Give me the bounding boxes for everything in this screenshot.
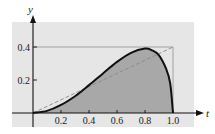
x-tick-label: 0.6 — [111, 115, 124, 126]
x-tick-label: 0.8 — [139, 115, 152, 126]
y-tick-label: 0.2 — [18, 75, 31, 86]
x-axis-label: t — [206, 107, 210, 119]
x-axis-arrow-icon — [196, 110, 204, 116]
x-tick-label: 0.2 — [55, 115, 68, 126]
chart: 0.2 0.4 0.6 0.8 1.0 0.2 0.4 t y — [0, 0, 215, 134]
y-axis-label: y — [27, 3, 33, 15]
x-tick-label: 0.4 — [83, 115, 96, 126]
y-axis-arrow-icon — [30, 15, 36, 23]
y-tick-label: 0.4 — [18, 42, 31, 53]
x-tick-label: 1.0 — [167, 115, 180, 126]
